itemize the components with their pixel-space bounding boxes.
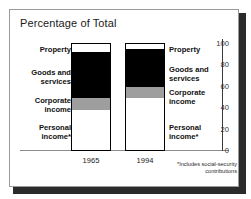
segment-goods-services-1965	[72, 52, 110, 98]
bar-1965[interactable]	[71, 43, 111, 151]
segment-property-1965	[72, 44, 110, 52]
chart-footnote: *Includes social-security contributions	[169, 161, 237, 174]
bar-1994[interactable]	[125, 43, 165, 151]
segment-personal-income-1965	[72, 110, 110, 150]
y-axis-line	[222, 39, 223, 151]
segment-goods-services-1994	[126, 49, 164, 87]
segment-corporate-income-1994	[126, 87, 164, 98]
category-label-1965: 1965	[65, 156, 117, 165]
plot-area: Property Goods and services Corporate in…	[9, 9, 239, 187]
y-tick-100: 100	[203, 39, 229, 48]
y-tick-80: 80	[203, 60, 229, 69]
label-left-goods-services: Goods and services	[13, 68, 71, 86]
label-left-property: Property	[13, 45, 71, 54]
y-tick-40: 40	[203, 103, 229, 112]
segment-personal-income-1994	[126, 98, 164, 150]
label-left-corporate-income: Corporate income	[13, 96, 71, 114]
label-left-personal-income: Personal income*	[13, 123, 71, 141]
chart-figure: Percentage of Total Property Goods and s…	[0, 0, 251, 199]
category-label-1994: 1994	[119, 156, 171, 165]
y-tick-20: 20	[203, 125, 229, 134]
segment-corporate-income-1965	[72, 98, 110, 110]
y-tick-0: 0	[203, 146, 229, 155]
y-tick-60: 60	[203, 82, 229, 91]
